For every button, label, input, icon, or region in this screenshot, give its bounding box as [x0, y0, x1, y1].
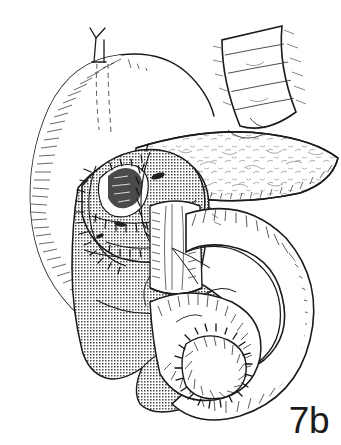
figure-label: 7b [289, 402, 329, 439]
surgical-illustration [0, 0, 341, 445]
figure-container: 7b [0, 0, 341, 445]
ligated-vessel-stub-icon [90, 28, 106, 62]
efferent-jejunal-limb [213, 26, 306, 128]
